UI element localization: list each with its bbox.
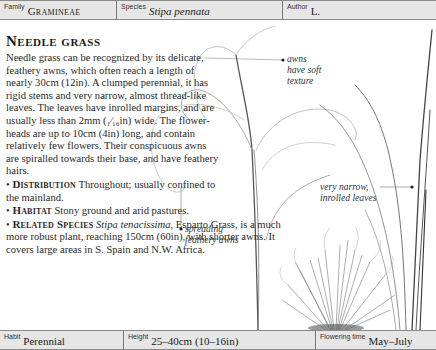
height-label: Height: [128, 333, 148, 340]
section-heading: Related Species: [12, 218, 93, 230]
callout-narrow-leaves: very narrow, inrolled leaves: [320, 181, 376, 203]
habit-label: Habit: [4, 333, 20, 340]
section-related-species: • Related Species Stipa tenacissima, Esp…: [6, 218, 296, 257]
author-cell: Author L.: [283, 1, 436, 19]
callout-awns-soft-texture: awns have soft texture: [287, 53, 321, 86]
height-value: 25–40cm (10–16in): [151, 336, 238, 347]
callout-line: awns: [287, 53, 321, 64]
bullet: •: [6, 205, 10, 216]
article-description: Needle grass can be recognized by its de…: [6, 52, 221, 178]
height-cell: Height 25–40cm (10–16in): [124, 331, 316, 349]
flowering-label: Flowering time: [320, 333, 366, 340]
callout-line: very narrow,: [320, 181, 376, 192]
family-cell: Family Gramineae: [0, 1, 117, 19]
callout-line: inrolled leaves: [320, 192, 376, 203]
flowering-cell: Flowering time May–July: [316, 331, 436, 349]
section-heading: Distribution: [12, 178, 76, 190]
section-distribution: • Distribution Throughout; usually confi…: [6, 178, 221, 204]
habit-value: Perennial: [23, 336, 65, 347]
habit-cell: Habit Perennial: [0, 331, 124, 349]
footer-bar: Habit Perennial Height 25–40cm (10–16in)…: [0, 330, 436, 350]
species-label: Species: [121, 3, 146, 10]
callout-line: texture: [287, 75, 321, 86]
article: Needle grass Needle grass can be recogni…: [6, 32, 221, 257]
species-value: Stipa pennata: [149, 6, 210, 17]
author-value: L.: [311, 6, 320, 17]
callout-line: have soft: [287, 64, 321, 75]
bullet: •: [6, 179, 10, 190]
section-heading: Habitat: [12, 204, 51, 216]
header-bar: Family Gramineae Species Stipa pennata A…: [0, 0, 436, 20]
author-label: Author: [287, 3, 308, 10]
section-habitat: • Habitat Stony ground and arid pastures…: [6, 204, 221, 218]
bullet: •: [6, 219, 10, 230]
family-label: Family: [4, 3, 25, 10]
section-text: Stony ground and arid pastures.: [52, 205, 189, 216]
family-value: Gramineae: [28, 6, 81, 17]
flowering-value: May–July: [369, 336, 413, 347]
article-title: Needle grass: [6, 32, 221, 51]
species-cell: Species Stipa pennata: [117, 1, 283, 19]
related-species-name: Stipa tenacissima: [96, 219, 170, 230]
